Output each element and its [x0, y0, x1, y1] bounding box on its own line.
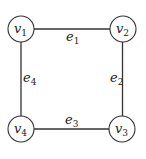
edge-label-e3: e3	[65, 112, 79, 129]
graph-diagram: v1 v2 v3 v4 e1 e2 e3 e4	[0, 0, 146, 159]
node-v3: v3	[109, 116, 135, 142]
edge-label-e4: e4	[23, 70, 37, 87]
node-v2: v2	[110, 16, 136, 42]
node-v4: v4	[8, 116, 34, 142]
edge-label-e2: e2	[110, 70, 123, 87]
edge-label-e1: e1	[66, 29, 79, 46]
node-v1: v1	[8, 16, 34, 42]
